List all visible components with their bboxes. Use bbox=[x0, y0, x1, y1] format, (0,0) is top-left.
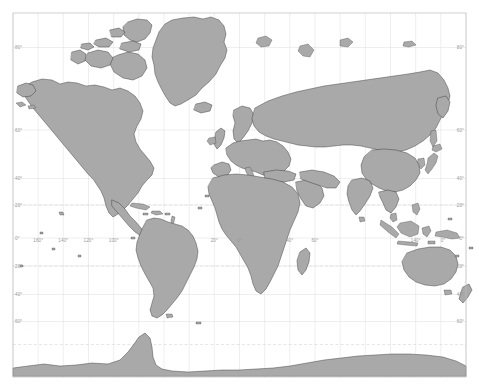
lat-label-right-40: 40° bbox=[457, 176, 464, 181]
lat-label-right-80: 80° bbox=[457, 45, 464, 50]
lon-label-120w: 120° bbox=[84, 238, 94, 243]
lon-label-180: 0° bbox=[441, 238, 446, 243]
world-map-figure: 80° 60° 40° 20° 0° 20° 40° 60° 80° 60° 4… bbox=[0, 0, 479, 392]
lon-label-60e: 60° bbox=[311, 238, 318, 243]
lat-label-right-20n: 20° bbox=[457, 203, 464, 208]
lat-label-right-40s: 40° bbox=[457, 292, 464, 297]
lat-label-left-20n: 20° bbox=[15, 203, 22, 208]
hawaii bbox=[59, 212, 64, 215]
lon-label-0: 0° bbox=[237, 238, 242, 243]
lon-label-140e: 140° bbox=[411, 238, 421, 243]
timor bbox=[428, 241, 435, 244]
tasmania bbox=[444, 290, 452, 295]
galapagos bbox=[131, 237, 135, 239]
lat-label-right-60: 60° bbox=[457, 128, 464, 133]
lat-label-right-0: 0° bbox=[459, 236, 464, 241]
lon-label-140w: 140° bbox=[58, 238, 68, 243]
lon-label-100w: 100° bbox=[109, 238, 119, 243]
iceland bbox=[194, 102, 212, 113]
map-canvas[interactable]: 80° 60° 40° 20° 0° 20° 40° 60° 80° 60° 4… bbox=[0, 0, 479, 392]
fiji bbox=[469, 247, 473, 249]
lat-label-left-60s: 60° bbox=[15, 319, 22, 324]
lat-label-left-80: 80° bbox=[15, 45, 22, 50]
lat-label-right-20s: 20° bbox=[457, 264, 464, 269]
puerto-rico bbox=[165, 213, 170, 215]
south-georgia bbox=[196, 322, 201, 324]
lon-label-40e: 40° bbox=[286, 238, 293, 243]
lat-label-left-40: 40° bbox=[15, 176, 22, 181]
lat-label-left-40s: 40° bbox=[15, 292, 22, 297]
lon-label-160w: 160° bbox=[33, 238, 43, 243]
canary-islands bbox=[205, 195, 209, 197]
sri-lanka bbox=[359, 217, 365, 222]
lat-label-right-60s: 60° bbox=[457, 319, 464, 324]
cape-verde bbox=[198, 207, 202, 209]
lat-label-left-0: 0° bbox=[15, 236, 20, 241]
lat-label-left-60: 60° bbox=[15, 128, 22, 133]
lon-label-20w: 20° bbox=[211, 238, 218, 243]
jamaica bbox=[143, 213, 148, 215]
lat-label-left-20s: 20° bbox=[15, 264, 22, 269]
